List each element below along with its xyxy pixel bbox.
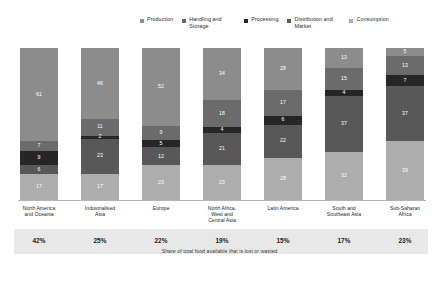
bar-segment[interactable]: 5 [386,48,424,56]
bar-segment-value: 13 [402,63,408,69]
footer-caption: Share of total food available that is lo… [0,248,439,254]
bar-segment[interactable]: 9 [142,126,180,140]
bar-column[interactable]: 51373739 [386,48,424,200]
x-axis-region-labels: North America and OceaniaIndustrialised … [20,205,424,227]
legend-item[interactable]: Processing [244,16,278,23]
bar-column[interactable]: 461122317 [81,48,119,200]
bar-column[interactable]: 6179617 [20,48,58,200]
bar-segment-value: 18 [219,111,225,117]
bar-segment-value: 21 [219,146,225,152]
bar-segment-value: 6 [282,117,285,123]
bar-segment-value: 28 [280,66,286,72]
bar-segment-value: 46 [97,81,103,87]
legend-swatch-icon [287,19,291,23]
bar-segment[interactable]: 22 [264,125,302,158]
region-percent-value: 25% [81,237,119,244]
bar-segment[interactable]: 17 [81,174,119,200]
bar-column[interactable]: 281762228 [264,48,302,200]
bar-segment-value: 22 [280,138,286,144]
bar-segment-value: 52 [158,84,164,90]
bar-segment[interactable]: 5 [142,140,180,148]
bar-column[interactable]: 52951223 [142,48,180,200]
chart-legend: ProductionHandling and StorageProcessing… [140,16,430,42]
bar-segment[interactable]: 12 [142,147,180,165]
bar-segment-value: 9 [160,130,163,136]
bar-segment-value: 61 [36,92,42,98]
region-percent-value: 17% [325,237,363,244]
bar-segment[interactable]: 21 [203,133,241,165]
bar-segment[interactable]: 23 [81,139,119,174]
region-label: Latin America [264,205,302,227]
bar-segment-value: 28 [280,176,286,182]
legend-item-label: Consumption [356,16,388,23]
bar-segment-value: 32 [341,173,347,179]
stacked-bar-chart: ProductionHandling and StorageProcessing… [0,0,439,282]
legend-item[interactable]: Production [140,16,173,23]
region-label: Sub-Saharan Africa [386,205,424,227]
bar-segment[interactable]: 39 [386,141,424,200]
bar-segment-value: 6 [38,167,41,173]
bar-segment-value: 17 [97,184,103,190]
bar-segment[interactable]: 28 [264,158,302,200]
bar-segment[interactable]: 37 [325,96,363,152]
bar-segment-value: 23 [219,180,225,186]
bar-segment[interactable]: 23 [203,165,241,200]
bar-segment-value: 4 [343,90,346,96]
bar-segment-value: 5 [404,49,407,55]
bar-segment[interactable]: 46 [81,48,119,119]
bar-segment-value: 7 [38,143,41,149]
legend-swatch-icon [349,19,353,23]
bar-segment-value: 37 [341,121,347,127]
bar-segment[interactable]: 7 [386,75,424,86]
bar-segment-value: 7 [404,78,407,84]
bar-segment-value: 17 [36,184,42,190]
bar-segment-value: 23 [97,153,103,159]
bar-segment[interactable]: 52 [142,48,180,126]
bar-segment[interactable]: 34 [203,48,241,100]
bar-segment-value: 23 [158,180,164,186]
region-percent-value: 42% [20,237,58,244]
legend-item-label: Distribution and Market [294,16,340,29]
legend-item[interactable]: Handling and Storage [182,16,235,29]
region-label: North America and Oceania [20,205,58,227]
bar-segment-value: 15 [341,76,347,82]
bar-column[interactable]: 341842123 [203,48,241,200]
bar-segment[interactable]: 13 [386,56,424,76]
legend-item-label: Production [147,16,173,23]
legend-swatch-icon [140,19,144,23]
legend-item[interactable]: Distribution and Market [287,16,340,29]
bar-segment-value: 34 [219,71,225,77]
legend-item-label: Processing [251,16,278,23]
bar-segment-value: 37 [402,111,408,117]
legend-swatch-icon [244,19,248,23]
bar-segment-value: 13 [341,55,347,61]
region-percent-value: 22% [142,237,180,244]
region-percent-value: 19% [203,237,241,244]
bar-segment-value: 11 [97,124,103,130]
bar-segment[interactable]: 13 [325,48,363,68]
bar-segment[interactable]: 37 [386,86,424,142]
region-percent-value: 23% [386,237,424,244]
bar-segment[interactable]: 23 [142,165,180,200]
region-percent-value: 15% [264,237,302,244]
bar-segment-value: 39 [402,168,408,174]
bar-segment[interactable]: 18 [203,100,241,127]
bar-segment-value: 12 [158,154,164,160]
bar-segment[interactable]: 61 [20,48,58,141]
bar-segment[interactable]: 17 [264,90,302,116]
bar-segment-value: 4 [221,127,224,133]
bar-segment[interactable]: 6 [20,165,58,174]
bar-segment[interactable]: 17 [20,174,58,200]
bar-segment[interactable]: 32 [325,152,363,200]
bar-segment[interactable]: 7 [20,141,58,152]
region-label: Industrialised Asia [81,205,119,227]
bar-segment[interactable]: 9 [20,151,58,165]
footer-percent-values: 42%25%22%19%15%17%23% [20,233,424,247]
bar-segment[interactable]: 6 [264,116,302,125]
bar-segment-value: 17 [280,100,286,106]
region-label: South and Southeast Asia [325,205,363,227]
bar-segment[interactable]: 15 [325,68,363,91]
legend-item[interactable]: Consumption [349,16,388,23]
bar-segment[interactable]: 28 [264,48,302,90]
bar-column[interactable]: 131543732 [325,48,363,200]
